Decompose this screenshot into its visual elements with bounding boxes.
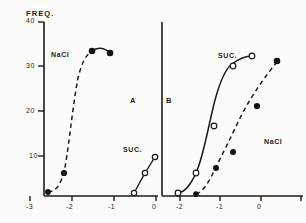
figure-canvas: FREQ. 40 30 20 10 A B NaCl SUC. SUC. NaC… [0, 0, 306, 223]
data-point [254, 103, 260, 109]
data-point [175, 190, 181, 196]
panel-a-nacl-line [48, 52, 91, 192]
data-point [61, 170, 67, 176]
data-point [152, 154, 157, 159]
data-point [193, 170, 199, 176]
data-point [107, 50, 114, 57]
panel-a-series-nacl [48, 48, 110, 192]
data-point [89, 48, 96, 55]
data-point [193, 191, 199, 197]
data-point [213, 165, 219, 171]
panel-a-nacl-points [45, 48, 113, 195]
data-point [274, 58, 281, 65]
data-point [131, 190, 136, 195]
y-axis-ticks [38, 22, 44, 156]
panel-b-suc-points [175, 53, 255, 196]
panel-b-nacl-points [193, 58, 280, 197]
data-point [230, 149, 236, 155]
data-point [249, 53, 255, 59]
data-point [45, 189, 51, 195]
plot-vector-layer [0, 0, 306, 223]
data-point [230, 63, 236, 69]
data-point [142, 170, 147, 175]
data-point [211, 123, 217, 129]
